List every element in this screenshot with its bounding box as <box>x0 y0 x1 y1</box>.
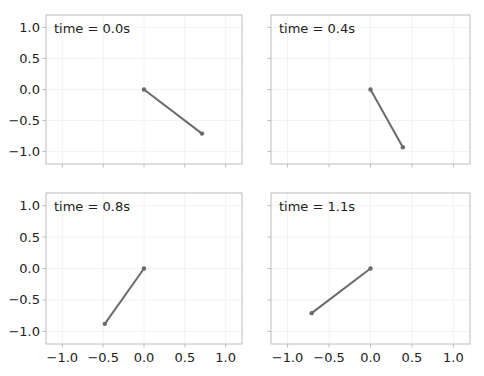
x-tick-label: 0.0 <box>360 350 381 365</box>
pendulum-rod <box>144 90 202 134</box>
time-annotation: time = 0.0s <box>54 21 130 36</box>
x-tick-label: 1.0 <box>443 350 464 365</box>
y-tick-label: 1.0 <box>19 20 40 35</box>
x-tick-label: −0.5 <box>313 350 345 365</box>
bob-marker <box>200 131 204 135</box>
y-tick-label: −1.0 <box>8 324 40 339</box>
pivot-marker <box>368 87 372 91</box>
bob-marker <box>103 322 107 326</box>
subplot-2: time = 0.4s <box>268 15 471 168</box>
x-tick-label: 0.5 <box>402 350 423 365</box>
time-annotation: time = 0.8s <box>54 199 130 214</box>
x-tick-label: −0.5 <box>87 350 119 365</box>
pendulum-rod <box>105 269 144 324</box>
y-tick-label: −0.5 <box>8 113 40 128</box>
time-annotation: time = 1.1s <box>279 199 355 214</box>
bob-marker <box>401 145 405 149</box>
x-tick-label: 0.5 <box>174 350 195 365</box>
pivot-marker <box>368 266 372 270</box>
subplot-4: −1.0−0.50.00.51.0time = 1.1s <box>268 193 471 365</box>
pendulum-rod <box>312 269 371 314</box>
subplot-1: −1.0−0.50.00.51.0time = 0.0s <box>8 15 242 168</box>
y-tick-label: 0.0 <box>19 261 40 276</box>
y-tick-label: −0.5 <box>8 292 40 307</box>
pivot-marker <box>142 87 146 91</box>
x-tick-label: 1.0 <box>215 350 236 365</box>
subplot-3: −1.0−0.50.00.51.0−1.0−0.50.00.51.0time =… <box>8 193 242 365</box>
pendulum-figure: −1.0−0.50.00.51.0time = 0.0stime = 0.4s−… <box>0 0 484 376</box>
y-tick-label: 0.5 <box>19 51 40 66</box>
time-annotation: time = 0.4s <box>279 21 355 36</box>
x-tick-label: 0.0 <box>134 350 155 365</box>
y-tick-label: 1.0 <box>19 198 40 213</box>
x-tick-label: −1.0 <box>47 350 79 365</box>
y-tick-label: 0.5 <box>19 230 40 245</box>
pendulum-rod <box>371 90 403 148</box>
x-tick-label: −1.0 <box>272 350 304 365</box>
bob-marker <box>309 311 313 315</box>
y-tick-label: 0.0 <box>19 82 40 97</box>
pivot-marker <box>142 266 146 270</box>
y-tick-label: −1.0 <box>8 144 40 159</box>
